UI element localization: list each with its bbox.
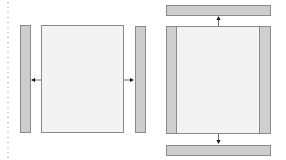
- arrow-up-icon: [217, 16, 221, 26]
- arrows-layer: [0, 0, 286, 160]
- arrow-down-icon: [217, 134, 221, 144]
- arrow-right-icon: [124, 78, 134, 82]
- arrow-left-icon: [31, 78, 41, 82]
